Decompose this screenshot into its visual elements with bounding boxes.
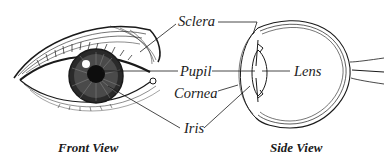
front-view-eye-illustration — [14, 26, 160, 111]
label-cornea: Cornea — [174, 86, 218, 101]
label-lens: Lens — [294, 64, 321, 79]
label-pupil: Pupil — [180, 64, 211, 79]
label-sclera: Sclera — [178, 14, 215, 29]
caption-side-view: Side View — [270, 141, 322, 154]
cornea-leader — [218, 85, 238, 91]
sclera-leader-right — [218, 22, 257, 34]
label-iris: Iris — [184, 121, 204, 136]
caption-front-view: Front View — [58, 141, 118, 154]
iris-leader-left — [108, 86, 180, 128]
